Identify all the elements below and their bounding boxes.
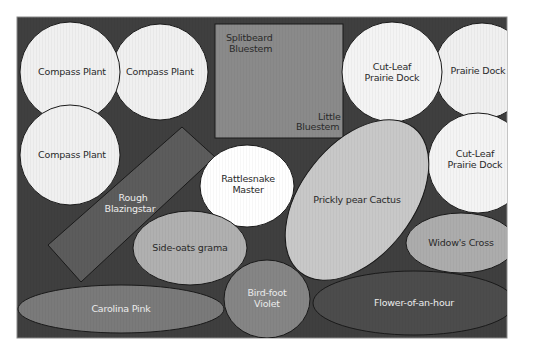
cut-leaf-prairie-dock-1-label-line1: Cut-Leaf [373, 61, 412, 72]
flower-of-an-hour-label: Flower-of-an-hour [374, 297, 454, 308]
side-oats-grama-label: Side-oats grama [152, 242, 227, 253]
prairie-dock-label: Prairie Dock [451, 65, 506, 76]
side-oats-grama[interactable]: Side-oats grama [133, 211, 247, 285]
little-bluestem-label-line2: Bluestem [296, 121, 339, 132]
compass-plant-2-label: Compass Plant [126, 66, 194, 77]
compass-plant-1-label: Compass Plant [38, 66, 106, 77]
rattlesnake-master-label-line2: Master [232, 184, 264, 195]
prairie-dock[interactable]: Prairie Dock [434, 23, 530, 119]
cut-leaf-prairie-dock-1-label-line2: Prairie Dock [365, 72, 420, 83]
cut-leaf-prairie-dock-2-label-line1: Cut-Leaf [456, 148, 495, 159]
prickly-pear-cactus-label: Prickly pear Cactus [313, 194, 401, 205]
bird-foot-violet[interactable]: Bird-foot Violet [224, 260, 310, 338]
rattlesnake-master-label-line1: Rattlesnake [221, 173, 275, 184]
garden-plan-diagram: Splitbeard Bluestem Little Bluestem Comp… [0, 0, 545, 354]
compass-plant-3-label: Compass Plant [38, 149, 106, 160]
widows-cross[interactable]: Widow's Cross [406, 213, 516, 273]
rough-blazingstar-label-line1: Rough [118, 192, 147, 203]
rough-blazingstar-label-line2: Blazingstar [105, 203, 156, 214]
splitbeard-bluestem-label-line2: Bluestem [229, 43, 272, 54]
bluestem-square[interactable]: Splitbeard Bluestem Little Bluestem [215, 24, 343, 138]
cut-leaf-prairie-dock-2-label-line2: Prairie Dock [448, 159, 503, 170]
splitbeard-bluestem-label-line1: Splitbeard [226, 32, 273, 43]
widows-cross-label: Widow's Cross [428, 237, 494, 248]
compass-plant-3[interactable]: Compass Plant [20, 105, 120, 205]
carolina-pink-label: Carolina Pink [91, 303, 151, 314]
carolina-pink[interactable]: Carolina Pink [18, 285, 224, 333]
compass-plant-2[interactable]: Compass Plant [112, 24, 208, 120]
cut-leaf-prairie-dock-1[interactable]: Cut-Leaf Prairie Dock [342, 22, 442, 122]
flower-of-an-hour[interactable]: Flower-of-an-hour [313, 271, 515, 335]
bird-foot-violet-label-line1: Bird-foot [247, 287, 287, 298]
cut-leaf-prairie-dock-2[interactable]: Cut-Leaf Prairie Dock [428, 113, 528, 213]
bird-foot-violet-label-line2: Violet [254, 298, 280, 309]
